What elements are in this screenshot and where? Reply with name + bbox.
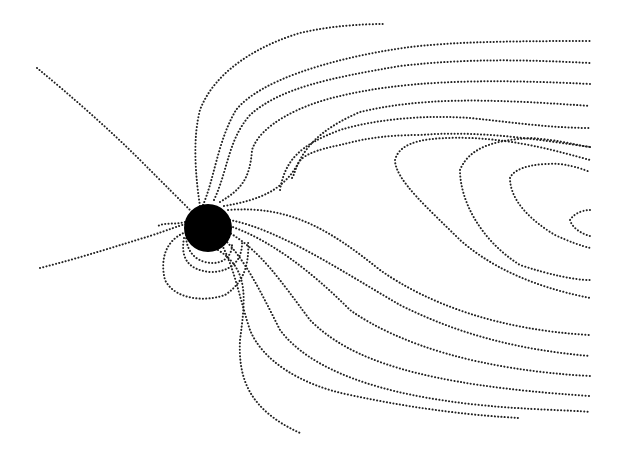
planet-circle [184, 204, 232, 252]
background [0, 0, 628, 457]
magnetosphere-diagram [0, 0, 628, 457]
